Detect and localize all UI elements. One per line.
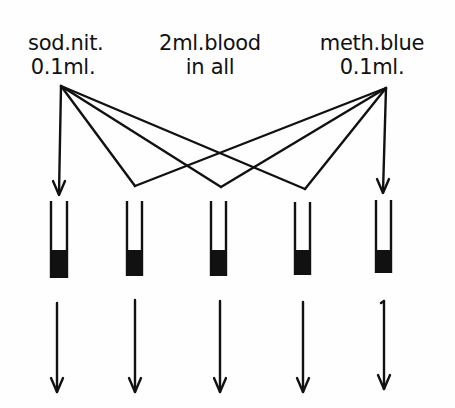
arrow-to-tube-1 [53, 86, 65, 195]
tube-5 [376, 200, 391, 273]
output-arrow-1 [51, 303, 63, 392]
output-arrow-2 [129, 300, 141, 392]
output-arrow-3 [214, 301, 226, 392]
sodium-nitrite-lines [61, 86, 305, 189]
tube-3 [211, 201, 226, 276]
tube-1 [51, 201, 67, 278]
methylene-blue-lines [135, 88, 386, 189]
arrow-to-tube-5 [377, 88, 389, 193]
output-arrow-4 [297, 302, 309, 392]
tube-4 [295, 202, 310, 275]
tubes [51, 200, 391, 278]
output-arrow-5 [378, 301, 390, 389]
tube-2 [127, 201, 142, 276]
diagram-graphics [0, 0, 455, 408]
output-arrows [51, 300, 390, 392]
